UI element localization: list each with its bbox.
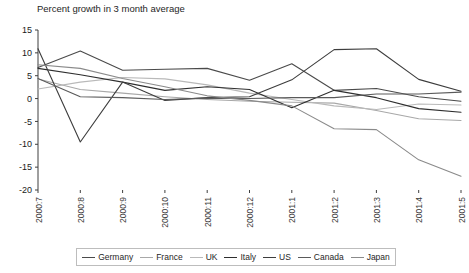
legend-item-label: UK: [206, 252, 218, 262]
legend-item-us[interactable]: US: [263, 252, 291, 262]
x-axis-tick-label: 2000:11: [203, 197, 213, 227]
x-axis-tick-label: 2000:9: [118, 197, 128, 223]
legend-item-italy[interactable]: Italy: [224, 252, 256, 262]
legend-item-france[interactable]: France: [140, 252, 182, 262]
y-axis-tick-label: -20: [19, 185, 32, 195]
y-axis-tick-label: -15: [19, 162, 32, 172]
x-axis-tick-label: 2001:3: [372, 197, 382, 223]
line-chart: Percent growth in 3 month average 151050…: [0, 0, 469, 273]
legend-swatch-icon: [190, 257, 203, 258]
y-axis-tick-label: 0: [27, 94, 32, 104]
legend-item-label: Japan: [367, 252, 390, 262]
legend-item-germany[interactable]: Germany: [82, 252, 133, 262]
y-axis-tick-label: 15: [22, 25, 32, 35]
legend-swatch-icon: [224, 257, 237, 258]
legend-item-label: US: [279, 252, 291, 262]
x-axis-tick-label: 2000:7: [34, 197, 44, 223]
legend-item-label: Canada: [314, 252, 344, 262]
series-line-italy: [38, 68, 461, 112]
legend-swatch-icon: [140, 257, 153, 258]
x-axis-tick-label: 2001:1: [287, 197, 297, 223]
y-axis-tick-label: -5: [24, 117, 32, 127]
y-axis-tick-label: -10: [19, 139, 32, 149]
plot-area: 151050-5-10-15-202000:72000:82000:92000:…: [0, 0, 469, 248]
legend-item-uk[interactable]: UK: [190, 252, 218, 262]
x-axis-tick-label: 2001:2: [330, 197, 340, 223]
y-axis-tick-label: 10: [22, 48, 32, 58]
legend-swatch-icon: [263, 257, 276, 258]
legend-item-label: France: [156, 252, 182, 262]
legend-swatch-icon: [351, 257, 364, 258]
x-axis-tick-label: 2000:8: [76, 197, 86, 223]
series-line-japan: [38, 65, 461, 177]
chart-legend: GermanyFranceUKItalyUSCanadaJapan: [76, 248, 396, 266]
x-axis-tick-label: 2001:4: [414, 197, 424, 223]
y-axis-tick-label: 5: [27, 71, 32, 81]
x-axis-tick-label: 2000:12: [245, 197, 255, 228]
legend-item-japan[interactable]: Japan: [351, 252, 390, 262]
legend-item-canada[interactable]: Canada: [298, 252, 344, 262]
legend-item-label: Germany: [98, 252, 133, 262]
legend-swatch-icon: [298, 257, 311, 258]
legend-item-label: Italy: [240, 252, 256, 262]
x-axis-tick-label: 2001:5: [457, 197, 467, 223]
x-axis-tick-label: 2000:10: [160, 197, 170, 228]
series-line-france: [38, 79, 461, 121]
series-line-us: [38, 49, 461, 142]
legend-swatch-icon: [82, 257, 95, 258]
